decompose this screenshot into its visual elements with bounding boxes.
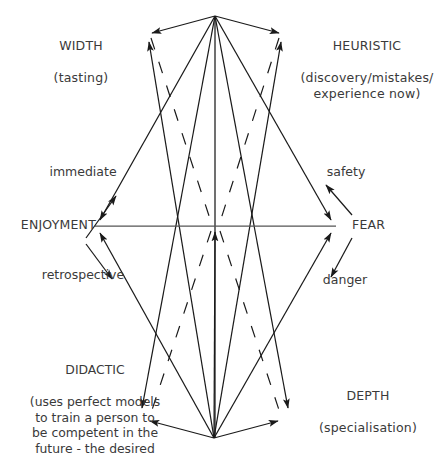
axis-label-enjoyment: ENJOYMENT xyxy=(2,217,96,233)
pole-label-depth: DEPTH (specialisation) xyxy=(300,372,436,452)
diagram-canvas: WIDTH (tasting) HEURISTIC (discovery/mis… xyxy=(0,0,438,455)
edge-apexbottom-bottomright xyxy=(214,421,278,438)
pole-heuristic-detail: (discovery/mistakes/ experience now) xyxy=(296,70,438,102)
edge-apextop-topleft xyxy=(152,16,215,33)
pole-heuristic-title: HEURISTIC xyxy=(296,38,438,54)
pole-width-detail: (tasting) xyxy=(16,70,146,86)
edge-apextop-topright xyxy=(215,16,279,33)
axis-sublabel-retrospective: retrospective xyxy=(20,267,146,283)
edge-apextop-bottomright xyxy=(215,16,288,408)
axis-label-fear: FEAR xyxy=(352,217,428,233)
dashed-edge-topright-center xyxy=(220,38,279,222)
pole-didactic-title: DIDACTIC xyxy=(2,362,188,378)
edge-fear-safety xyxy=(326,185,352,215)
axis-sublabel-immediate: immediate xyxy=(28,164,138,180)
axis-sublabel-danger: danger xyxy=(303,272,387,288)
dashed-edge-topleft-center xyxy=(151,38,211,222)
pole-depth-detail: (specialisation) xyxy=(300,420,436,436)
pole-didactic-detail: (uses perfect models to train a person t… xyxy=(2,394,188,455)
pole-width-title: WIDTH xyxy=(16,38,146,54)
pole-label-didactic: DIDACTIC (uses perfect models to train a… xyxy=(2,346,188,455)
pole-label-width: WIDTH (tasting) xyxy=(16,22,146,102)
pole-depth-title: DEPTH xyxy=(300,388,436,404)
pole-label-heuristic: HEURISTIC (discovery/mistakes/ experienc… xyxy=(296,22,438,118)
axis-sublabel-safety: safety xyxy=(304,164,388,180)
